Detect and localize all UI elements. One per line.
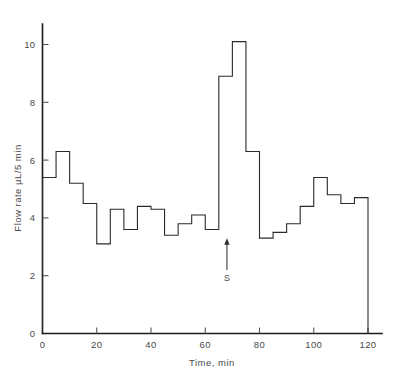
chart-canvas: 0246810 Flow rate µL/5 min 0204060801001… xyxy=(0,0,398,375)
stimulus-marker-label: S xyxy=(224,273,230,283)
y-tick-label-10: 10 xyxy=(24,39,35,50)
y-tick-label-0: 0 xyxy=(30,328,36,339)
x-tick-label-20: 20 xyxy=(91,339,102,350)
y-tick-label-6: 6 xyxy=(30,155,36,166)
x-tick-label-group: 020406080100120 xyxy=(40,339,377,350)
x-tick-label-60: 60 xyxy=(200,339,211,350)
x-tick-label-80: 80 xyxy=(254,339,265,350)
stimulus-marker-group: S xyxy=(224,238,230,283)
flow-rate-step-line xyxy=(43,42,369,334)
data-series-group xyxy=(43,42,369,334)
x-axis-title: Time, min xyxy=(189,357,235,368)
x-tick-label-40: 40 xyxy=(145,339,156,350)
y-tick-group xyxy=(43,45,49,276)
y-tick-label-2: 2 xyxy=(30,270,36,281)
x-tick-label-100: 100 xyxy=(305,339,322,350)
x-tick-label-120: 120 xyxy=(359,339,376,350)
x-axis: 020406080100120 Time, min xyxy=(40,328,382,369)
flow-rate-chart-figure: 0246810 Flow rate µL/5 min 0204060801001… xyxy=(0,0,398,375)
y-tick-label-4: 4 xyxy=(30,212,36,223)
y-tick-label-group: 0246810 xyxy=(24,39,35,339)
x-tick-label-0: 0 xyxy=(40,339,46,350)
x-tick-group xyxy=(97,328,368,334)
y-axis-title: Flow rate µL/5 min xyxy=(12,144,23,231)
y-tick-label-8: 8 xyxy=(30,97,36,108)
stimulus-arrow-head xyxy=(224,238,229,245)
